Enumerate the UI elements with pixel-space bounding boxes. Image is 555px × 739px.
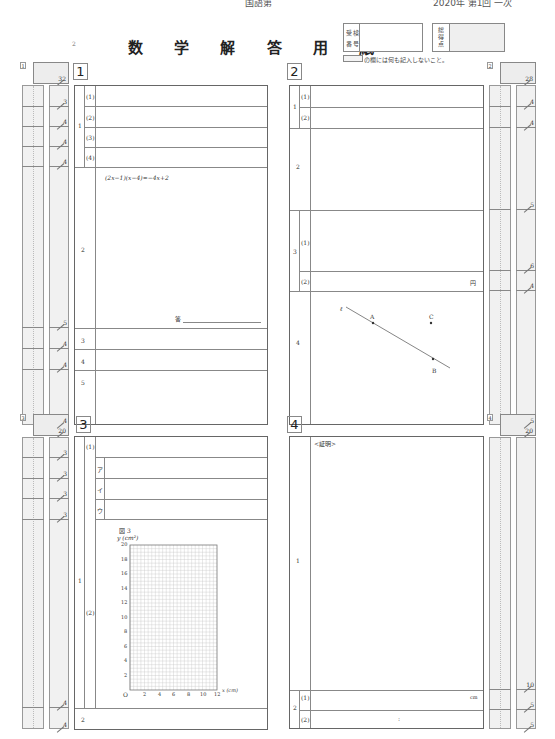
page-number: 2 [72,40,76,47]
s2-q3-unit-yen: 円 [470,278,476,287]
s4-proof-label: <証明> [314,439,336,448]
points-cell: 3 [49,486,69,498]
s1-q2-answer-label: 答 [175,314,181,323]
graph-origin: O [123,691,128,698]
s2-point-C: C [429,313,434,320]
points-cell: 10 [516,677,536,689]
section2-grader-col [489,85,511,425]
s1-q2-equation: (2x−1)(x−4)=−4x+2 [105,174,169,181]
s2-line-label: ℓ [340,305,343,312]
s2-point-B: B [432,367,436,374]
notice-text: の欄には何も記入しないこと。 [364,55,448,64]
points-cell: 5 [516,717,536,729]
points-cell: 4 [49,357,69,369]
points-cell: 5 [516,413,536,425]
points-cell: 4 [49,134,69,146]
points-cell: 4 [516,115,536,127]
section3-points-col [49,437,69,729]
s1-q2-answer-line[interactable] [183,322,261,323]
points-cell: 4 [49,154,69,166]
exam-number-box[interactable]: 受 検 番 号 [343,23,423,52]
s3-q1-2-label: (2) [86,609,95,616]
s1-q1-label: 1 [78,122,82,129]
total-score-box: 総得点 [432,23,505,52]
points-cell: 5 [516,197,536,209]
notice-box-sample [343,55,363,62]
section1-number: 1 [73,63,88,80]
section4-grader-col [489,437,511,729]
points-cell: 6 [516,258,536,270]
s2-point-A: A [370,313,374,320]
graph-grid[interactable] [130,545,220,695]
section1-total-box: 1 32 [33,62,69,84]
section1-answer-table: 1 (1) (2) (3) (4) 2 (2x−1)(x−4)=−4x+2 答 … [74,85,268,425]
points-cell: 4 [49,114,69,126]
exam-number-label: 受 検 番 号 [344,24,360,51]
points-cell: 3 [49,445,69,457]
points-cell: 3 [49,94,69,106]
points-cell: 3 [49,466,69,478]
points-cell: 5 [516,697,536,709]
section3-answer-table: 1 (1) ア イ ウ (2) 2 図 3 y (cm²) 20 18 16 1… [74,436,268,730]
section4-number: 4 [287,416,302,433]
s4-ratio-colon: : [398,715,400,722]
section2-points-col [516,85,536,425]
points-cell: 4 [516,94,536,106]
s2-q4-figure [290,291,485,426]
section3-number: 3 [76,416,91,433]
s4-unit-cm: cm [470,694,478,700]
points-cell: 4 [49,717,69,729]
points-cell: 3 [49,507,69,519]
total-score-label-cell: 総得点 [433,24,450,51]
points-cell: 5 [49,315,69,327]
graph-ylabel: y (cm²) [117,534,138,541]
section2-answer-table: 1 (1) (2) 2 3 (1) (2) 円 4 ℓ A B C [289,85,484,425]
section1-grader-col-a [22,85,44,425]
points-cell: 4 [516,278,536,290]
points-cell: 4 [49,413,69,425]
section4-answer-table: <証明> 1 2 (1) cm (2) : [289,436,484,729]
graph-xlabel: x (cm) [222,687,238,693]
header-cut-right: 2020年 第1回 一次 [433,0,512,9]
section2-total-box: 2 28 [500,62,536,84]
points-cell: 4 [49,695,69,707]
section3-grader-col [22,437,44,729]
section2-number: 2 [287,63,302,80]
header-cut-left: 国語第 [245,0,272,9]
points-cell: 4 [49,336,69,348]
